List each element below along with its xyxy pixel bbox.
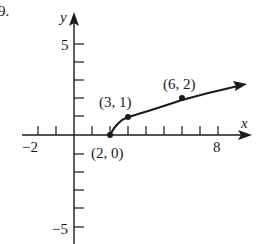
point-label-6-2: (6, 2) [163,76,196,93]
x-tick-label-neg2: −2 [22,139,38,155]
y-tick-label-neg5: −5 [52,221,68,237]
problem-number: 9. [0,3,9,19]
x-tick-label-8: 8 [213,139,221,155]
point-6-2 [179,95,185,101]
y-tick-label-5: 5 [61,37,69,53]
graph: 9. x y −2 8 5 −5 [0,0,266,244]
point-2-0 [107,132,113,138]
point-label-2-0: (2, 0) [91,145,124,162]
x-ticks [38,126,218,135]
point-label-3-1: (3, 1) [99,94,132,111]
y-axis-label: y [58,9,67,25]
x-axis-label: x [240,115,248,131]
point-3-1 [125,114,131,120]
